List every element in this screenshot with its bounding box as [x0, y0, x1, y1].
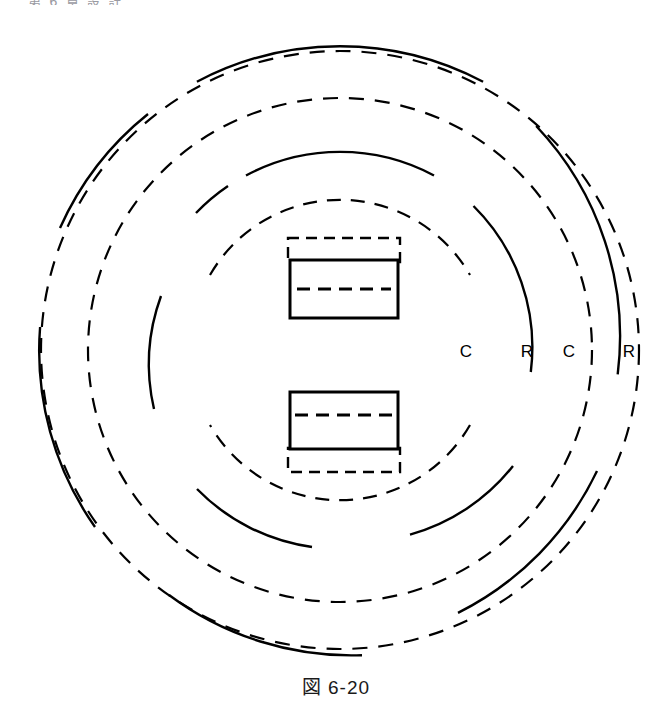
arc-segment: [410, 466, 513, 535]
arc-segment: [246, 152, 434, 176]
caption-number: 6-20: [328, 677, 370, 698]
caption-symbol: 図: [302, 676, 322, 698]
layer-label-r-inner: R: [521, 342, 533, 361]
arc-segment: [458, 471, 597, 613]
layer-label-c-outer: C: [563, 342, 575, 361]
ring-middle-solid: [149, 152, 532, 547]
layer-label-r-outer: R: [623, 342, 635, 361]
lower-block-solid-rect: [290, 392, 398, 449]
figure-caption: 図 6-20: [0, 672, 672, 699]
core-blocks-group: [288, 238, 400, 472]
arc-segment: [536, 126, 620, 374]
arc-segment: [196, 186, 228, 213]
upper-block-dashed-rect: [288, 238, 400, 262]
ring-middle-dashed: [88, 98, 592, 602]
arc-segment: [197, 489, 312, 547]
arc-segment: [39, 327, 95, 527]
concentric-ring-diagram: C R C R: [0, 0, 672, 709]
rings-group: [39, 46, 639, 655]
figure-container: 第 6 章 設 計: [0, 0, 672, 709]
arc-segment: [149, 296, 161, 409]
layer-labels-group: C R C R: [460, 342, 635, 361]
layer-label-c-inner: C: [460, 342, 472, 361]
arc-segment: [169, 595, 362, 655]
lower-block-dashed-rect: [288, 448, 400, 472]
lower-block: [288, 392, 400, 472]
ring-inner-dashed: [210, 200, 470, 500]
upper-block: [288, 238, 400, 318]
